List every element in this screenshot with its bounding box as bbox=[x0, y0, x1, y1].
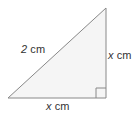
hypotenuse-unit: cm bbox=[27, 43, 45, 55]
vertical-leg-length-label: x cm bbox=[108, 50, 132, 61]
hypotenuse-length-label: 2 cm bbox=[21, 44, 45, 55]
horizontal-leg-length-label: x cm bbox=[46, 101, 70, 112]
geometry-figure: 2 cm x cm x cm bbox=[0, 0, 136, 117]
horizontal-leg-unit: cm bbox=[52, 100, 70, 112]
vertical-leg-unit: cm bbox=[114, 49, 132, 61]
